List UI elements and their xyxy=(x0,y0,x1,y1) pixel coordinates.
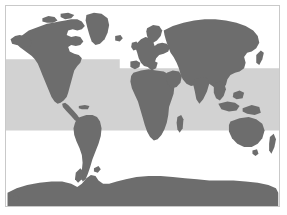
world-map-figure xyxy=(0,0,287,215)
map-frame xyxy=(5,5,280,207)
world-map-svg xyxy=(6,6,279,206)
